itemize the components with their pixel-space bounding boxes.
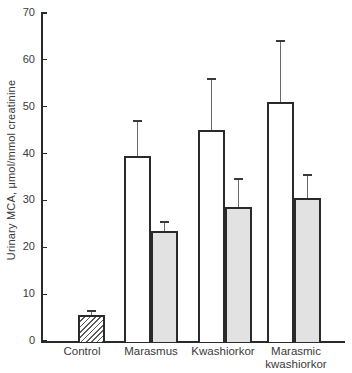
y-tick-label: 40 (0, 147, 35, 159)
bar-hatched (78, 315, 105, 342)
error-bar-line (137, 121, 138, 156)
bar-chart-figure: Urinary MCA, μmol/mmol creatinine 010203… (0, 0, 352, 373)
bar-open (198, 130, 225, 342)
error-bar-line (238, 179, 239, 207)
bar-shaded (225, 207, 252, 342)
y-tick (41, 247, 47, 248)
y-tick (41, 106, 47, 107)
bar-open (124, 156, 151, 342)
category-label: Marasmickwashiorkor (251, 345, 341, 371)
error-bar-cap (207, 78, 216, 80)
y-tick-label: 60 (0, 53, 35, 65)
y-tick (41, 340, 47, 341)
error-bar-line (307, 175, 308, 198)
y-tick-label: 30 (0, 193, 35, 205)
error-bar-cap (234, 178, 243, 180)
y-tick (41, 153, 47, 154)
category-label-line: kwashiorkor (251, 358, 341, 371)
bar-shaded (151, 231, 178, 342)
error-bar-line (211, 79, 212, 131)
y-tick (41, 200, 47, 201)
error-bar-cap (133, 120, 142, 122)
y-tick (41, 12, 47, 13)
y-tick-label: 10 (0, 287, 35, 299)
y-tick-label: 50 (0, 100, 35, 112)
y-tick-label: 0 (0, 334, 35, 346)
error-bar-line (280, 41, 281, 102)
error-bar-cap (276, 40, 285, 42)
y-tick-label: 70 (0, 6, 35, 18)
error-bar-cap (160, 221, 169, 223)
error-bar-cap (87, 310, 96, 312)
y-tick (41, 294, 47, 295)
bar-shaded (294, 198, 321, 342)
error-bar-line (164, 222, 165, 231)
y-axis-line (41, 13, 43, 341)
bar-open (267, 102, 294, 342)
category-label-line: Marasmic (251, 345, 341, 358)
error-bar-cap (303, 174, 312, 176)
y-tick-label: 20 (0, 240, 35, 252)
y-tick (41, 59, 47, 60)
